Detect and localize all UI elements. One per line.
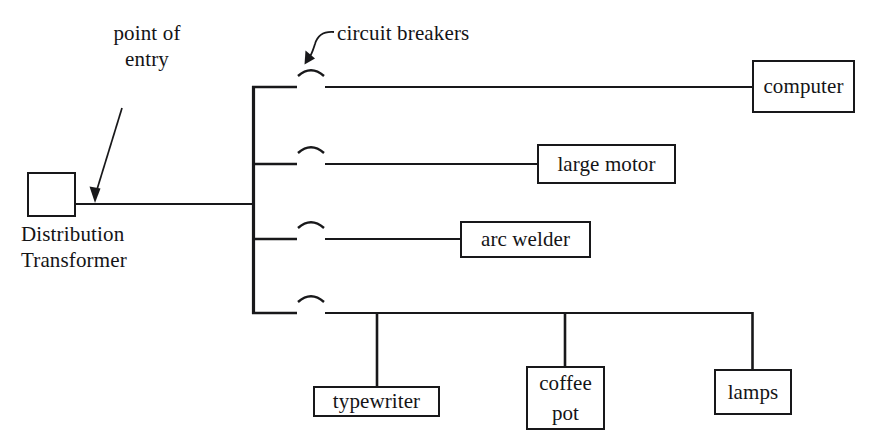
circuit-breakers-arrow-shaft bbox=[309, 32, 334, 58]
point-of-entry-arrow-shaft bbox=[95, 108, 122, 196]
load-label-arc-welder: arc welder bbox=[481, 228, 570, 251]
load-box-typewriter[interactable]: typewriter bbox=[313, 386, 440, 417]
load-box-lamps[interactable]: lamps bbox=[714, 369, 792, 415]
load-label-large-motor: large motor bbox=[557, 153, 655, 176]
distribution-transformer-box[interactable] bbox=[27, 172, 76, 217]
point-of-entry-label-line1: point of bbox=[113, 21, 180, 45]
load-label-coffee-pot-line1: coffee bbox=[539, 368, 592, 398]
circuit-breakers-label: circuit breakers bbox=[337, 21, 567, 47]
circuit-breaker-arc-2 bbox=[298, 147, 324, 153]
load-label-computer: computer bbox=[763, 75, 843, 98]
distribution-transformer-label-line2: Transformer bbox=[21, 248, 127, 272]
circuit-breakers-arrow-head bbox=[305, 51, 316, 65]
circuit-breaker-arc-1 bbox=[298, 70, 324, 76]
distribution-transformer-label-line1: Distribution bbox=[21, 222, 124, 246]
load-label-typewriter: typewriter bbox=[333, 390, 420, 413]
distribution-transformer-label: DistributionTransformer bbox=[21, 222, 191, 273]
load-label-lamps: lamps bbox=[728, 381, 779, 404]
diagram-canvas: DistributionTransformer point ofentry ci… bbox=[0, 0, 876, 444]
point-of-entry-arrow-head bbox=[90, 187, 101, 204]
point-of-entry-label: point ofentry bbox=[88, 21, 206, 72]
load-box-coffee-pot[interactable]: coffeepot bbox=[526, 366, 605, 430]
circuit-breaker-arc-3 bbox=[298, 222, 324, 228]
circuit-breaker-arc-4 bbox=[298, 296, 324, 302]
load-box-large-motor[interactable]: large motor bbox=[537, 144, 676, 184]
load-label-coffee-pot-line2: pot bbox=[552, 398, 579, 428]
load-box-computer[interactable]: computer bbox=[752, 60, 855, 113]
point-of-entry-label-line2: entry bbox=[125, 47, 169, 71]
load-box-arc-welder[interactable]: arc welder bbox=[460, 221, 591, 258]
